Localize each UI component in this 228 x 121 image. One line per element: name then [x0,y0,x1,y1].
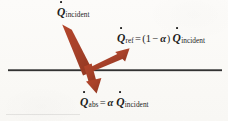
radiation-surface-diagram: Qincident Qref=(1−α)Qincident Qabs=αQinc… [0,0,228,121]
symbol-q-dot-reflected: Q [117,32,126,44]
subscript-ref: ref [126,36,134,45]
symbol-q-dot-incident-rhs: Q [173,32,182,44]
label-absorbed-heat-rate-equation: Qabs=αQincident [80,97,149,109]
scan-edge-artifact [6,114,80,115]
overdot-icon [120,27,122,29]
overdot-icon [176,27,178,29]
close-paren: ) [167,33,171,44]
subscript-incident-rhs: incident [125,100,149,109]
subscript-incident: incident [66,10,90,19]
symbol-q-dot-incident: Q [57,6,66,18]
subscript-abs: abs [89,100,99,109]
alpha-symbol: α [107,97,114,108]
symbol-q-dot-absorbed: Q [80,96,89,108]
alpha-symbol: α [160,33,167,44]
equals-sign: = [98,97,106,108]
minus-sign: − [151,33,159,44]
surface-boundary-line [8,69,222,71]
overdot-icon [83,91,85,93]
equals-sign: = [134,33,142,44]
label-reflected-heat-rate-equation: Qref=(1−α)Qincident [117,33,205,45]
label-incident-heat-rate: Qincident [57,7,90,19]
overdot-icon [60,1,62,3]
subscript-incident-rhs: incident [181,36,205,45]
overdot-icon [120,91,122,93]
symbol-q-dot-incident-rhs: Q [116,96,125,108]
